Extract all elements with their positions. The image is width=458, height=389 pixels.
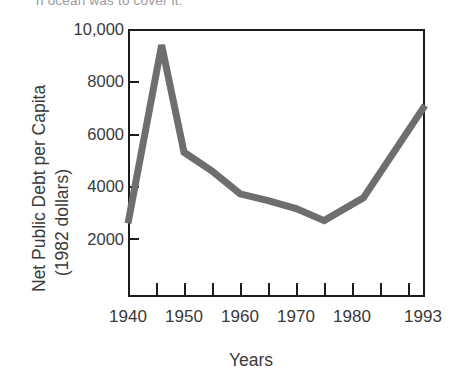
y-tick-label-8000: 8000 [62,73,124,90]
plot-area [128,29,425,297]
y-tick-label-6000: 6000 [62,126,124,143]
x-axis-title-text: Years [229,350,273,370]
y-tick-label-10000: 10,000 [62,21,124,38]
x-tick-label-1940: 1940 [100,308,156,325]
y-axis-title-line1: Net Public Debt per Capita [29,85,50,292]
y-tick-label-2000: 2000 [62,231,124,248]
debt-series-line [128,29,425,297]
x-tick-label-1980: 1980 [324,308,380,325]
x-tick-label-1950: 1950 [156,308,212,325]
y-axis-tick-labels: 10,000 8000 6000 4000 2000 [62,0,124,389]
y-tick-label-4000: 4000 [62,178,124,195]
x-tick-label-1960: 1960 [212,308,268,325]
chart-figure: n ocean was to cover it. Net Public Debt… [0,0,458,389]
x-axis-title: Years [0,350,458,371]
x-tick-label-1993: 1993 [395,308,451,325]
y-axis-title: Net Public Debt per Capita (1982 dollars… [0,0,64,320]
x-tick-label-1970: 1970 [268,308,324,325]
